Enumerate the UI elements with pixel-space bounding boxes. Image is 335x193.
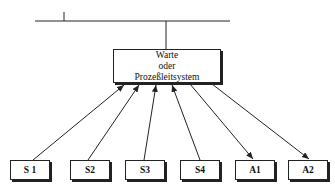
node-a1: A1	[235, 160, 275, 180]
node-label: A1	[249, 165, 261, 175]
arrow-a2	[212, 84, 309, 159]
node-s3: S3	[125, 160, 165, 180]
arrow-a1	[190, 84, 253, 159]
node-label: S3	[140, 165, 150, 175]
node-label: A2	[302, 165, 314, 175]
node-a2: A2	[288, 160, 328, 180]
arrow-s4	[172, 85, 200, 160]
node-label: S 1	[24, 165, 36, 175]
node-s1: S 1	[10, 160, 50, 180]
center-line-2: oder	[159, 61, 176, 72]
arrow-s2	[88, 85, 139, 160]
node-s4: S4	[180, 160, 220, 180]
center-line-1: Warte	[156, 50, 178, 61]
node-s2: S2	[70, 160, 110, 180]
center-line-3: Prozeßleitsystem	[135, 72, 200, 83]
arrow-s1	[33, 85, 124, 160]
node-label: S4	[195, 165, 205, 175]
arrow-s3	[144, 85, 156, 160]
connection-lines	[0, 0, 335, 193]
control-system-box: Warte oder Prozeßleitsystem	[113, 49, 221, 83]
node-label: S2	[85, 165, 95, 175]
